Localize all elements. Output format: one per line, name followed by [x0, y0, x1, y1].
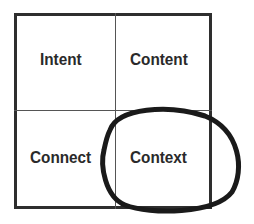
highlight-ellipse-icon [0, 0, 254, 224]
